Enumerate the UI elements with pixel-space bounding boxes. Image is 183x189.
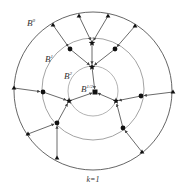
- edge-arrow: [119, 96, 141, 100]
- label-b0: B0: [27, 18, 36, 28]
- triangle-node-icon: [51, 22, 56, 26]
- edge-arrow: [57, 104, 67, 123]
- edge-arrow: [79, 16, 91, 40]
- circle-node-icon: [113, 47, 118, 52]
- nodes: [12, 13, 176, 159]
- square-center-node-icon: [93, 90, 98, 95]
- circle-node-icon: [121, 126, 126, 131]
- edge-arrow: [144, 92, 173, 96]
- triangle-node-icon: [55, 155, 60, 159]
- circle-node-icon: [139, 94, 144, 99]
- label-b-center: B1/2: [81, 84, 93, 94]
- edge-arrow: [117, 104, 123, 128]
- triangle-node-icon: [12, 85, 17, 89]
- nested-circles-diagram: B0 B1 B2 B1/2 k=1: [0, 0, 183, 189]
- edge-arrow: [117, 26, 135, 47]
- edge-arrow: [98, 93, 116, 101]
- edge-arrow: [28, 124, 54, 134]
- star-node-icon: [113, 98, 119, 104]
- edge-arrow: [53, 25, 68, 46]
- triangle-node-icon: [171, 89, 176, 93]
- edge-arrow: [125, 131, 142, 152]
- caption: k=1: [87, 175, 100, 184]
- edge-arrow: [94, 16, 108, 40]
- edge-arrow: [95, 49, 115, 65]
- circle-node-icon: [41, 90, 46, 95]
- circle-node-icon: [55, 121, 60, 126]
- edge-arrow: [14, 88, 40, 92]
- circle-node-icon: [68, 47, 73, 52]
- edge-arrow: [69, 93, 92, 101]
- edge-arrow: [70, 49, 90, 65]
- edge-arrow: [43, 92, 66, 100]
- edges: [14, 16, 173, 158]
